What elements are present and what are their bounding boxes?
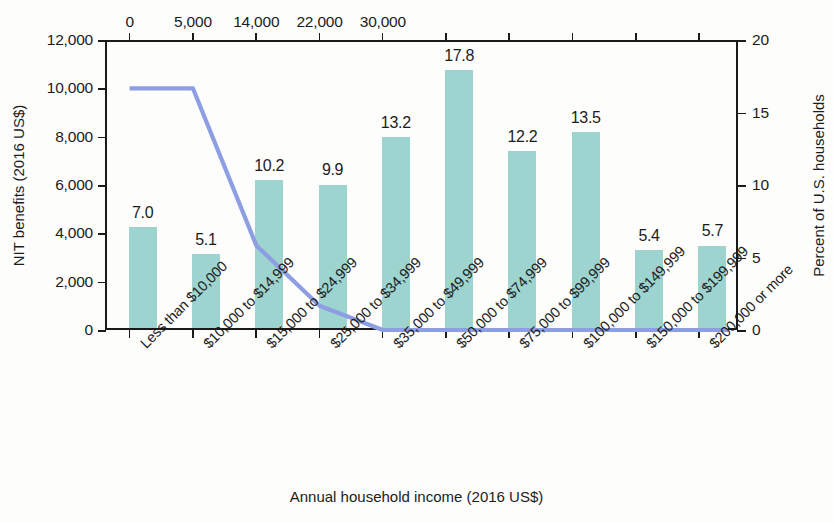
y-axis-right-tick-label: 0 [752, 321, 761, 339]
x-axis-title: Annual household income (2016 US$) [0, 488, 833, 505]
y-axis-left-tick-label: 12,000 [47, 31, 93, 49]
y-axis-left-tick [98, 330, 106, 332]
y-axis-left-tick-label: 6,000 [55, 176, 93, 194]
top-axis-tick-label: 0 [125, 13, 133, 31]
x-axis-tick [255, 329, 257, 338]
y-axis-right-tick-label: 10 [752, 176, 769, 194]
y-axis-right-tick [737, 185, 746, 187]
top-axis-tick-label: 22,000 [296, 13, 342, 31]
top-axis-tick-label: 30,000 [360, 13, 406, 31]
chart-figure: NIT benefits (2016 US$) Percent of U.S. … [0, 0, 833, 523]
y-axis-left-tick-label: 4,000 [55, 224, 93, 242]
x-axis-tick [319, 329, 321, 338]
y-axis-left-title: NIT benefits (2016 US$) [8, 40, 30, 330]
y-axis-left-title-text: NIT benefits (2016 US$) [11, 104, 28, 265]
y-axis-right-tick [737, 113, 746, 115]
top-axis-tick-label: 14,000 [233, 13, 279, 31]
x-axis-tick [129, 329, 131, 338]
y-axis-right-title: Percent of U.S. households [807, 40, 829, 330]
y-axis-left-tick-label: 8,000 [55, 128, 93, 146]
x-axis-tick [192, 329, 194, 338]
y-axis-left-tick-label: 10,000 [47, 79, 93, 97]
y-axis-left-tick-label: 0 [85, 321, 93, 339]
y-axis-left-tick-label: 2,000 [55, 273, 93, 291]
y-axis-right-title-text: Percent of U.S. households [810, 94, 827, 277]
y-axis-right-tick-label: 5 [752, 249, 761, 267]
top-axis-tick-label: 5,000 [174, 13, 212, 31]
y-axis-right-tick-label: 20 [752, 31, 769, 49]
y-axis-right-tick [737, 40, 746, 42]
y-axis-right-tick-label: 15 [752, 104, 769, 122]
